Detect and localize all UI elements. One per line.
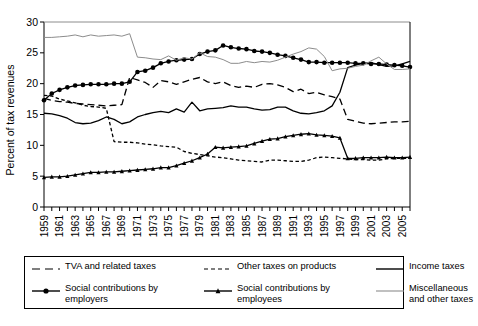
axis-frame (44, 22, 410, 207)
y-tick-label: 25 (26, 46, 38, 58)
x-tick-label: 1991 (288, 215, 299, 238)
x-tick-label: 2005 (397, 215, 408, 238)
y-axis-label-text: Percent of tax revenues (4, 65, 16, 176)
x-tick-label: 1971 (132, 215, 143, 238)
x-tick-group: 1959196119631965196719691971197319751977… (39, 207, 410, 237)
y-tick-label: 5 (32, 170, 38, 182)
y-tick-label: 30 (26, 16, 38, 28)
plot-area: Percent of tax revenues 051015202530 195… (0, 0, 427, 250)
series-line-4 (42, 131, 412, 179)
y-tick-label: 10 (26, 139, 38, 151)
legend-label-employers: Social contributions by employers (65, 283, 158, 304)
legend-entry-other-taxes: Other taxes on products (203, 261, 371, 276)
circle-marker-swatch-icon (31, 284, 61, 298)
x-tick-label: 1975 (163, 215, 174, 238)
solid-line-swatch-icon (375, 262, 405, 276)
x-tick-label: 1979 (194, 215, 205, 238)
x-tick-label: 1985 (241, 215, 252, 238)
x-tick-label: 2003 (381, 215, 392, 238)
legend-entry-miscellaneous: Miscellaneous and other taxes (375, 283, 478, 304)
x-tick-label: 1965 (85, 215, 96, 238)
legend-row-2: Social contributions by employers Social… (25, 283, 403, 307)
x-tick-label: 1981 (210, 215, 221, 238)
x-tick-label: 1967 (101, 215, 112, 238)
legend-entry-employees: Social contributions by employees (203, 283, 371, 304)
x-tick-label: 1973 (148, 215, 159, 238)
legend-row-1: TVA and related taxes Other taxes on pro… (25, 261, 403, 285)
x-tick-label: 1969 (116, 215, 127, 238)
y-tick-label: 20 (26, 77, 38, 89)
line-chart: Percent of tax revenues 051015202530 195… (0, 0, 427, 250)
legend-label-income-taxes: Income taxes (409, 261, 464, 272)
y-tick-label: 15 (26, 108, 38, 120)
x-tick-label: 1995 (319, 215, 330, 238)
gray-line-swatch-icon (375, 284, 405, 298)
x-tick-label: 1961 (54, 215, 65, 238)
x-tick-label: 1977 (179, 215, 190, 238)
x-tick-label: 1997 (335, 215, 346, 238)
x-tick-label: 2001 (366, 215, 377, 238)
x-tick-label: 1983 (225, 215, 236, 238)
x-tick-label: 1989 (272, 215, 283, 238)
x-tick-label: 1987 (257, 215, 268, 238)
legend-entry-employers: Social contributions by employers (31, 283, 199, 304)
y-tick-label: 0 (32, 201, 38, 213)
long-dash-swatch-icon (31, 262, 61, 276)
legend-label-other-taxes: Other taxes on products (237, 261, 336, 272)
x-tick-label: 1959 (39, 215, 50, 238)
legend-label-employees: Social contributions by employees (237, 283, 330, 304)
series-group (42, 34, 413, 180)
chart-legend: TVA and related taxes Other taxes on pro… (24, 256, 404, 309)
cross-marker-swatch-icon (203, 284, 233, 298)
legend-entry-tva: TVA and related taxes (31, 261, 199, 276)
x-tick-label: 1993 (303, 215, 314, 238)
series-line-2 (44, 61, 410, 123)
y-tick-group: 051015202530 (26, 16, 44, 213)
legend-entry-income-taxes: Income taxes (375, 261, 478, 276)
series-line-3 (42, 43, 413, 102)
x-tick-label: 1999 (350, 215, 361, 238)
short-dash-swatch-icon (203, 262, 233, 276)
x-tick-label: 1963 (70, 215, 81, 238)
legend-label-tva: TVA and related taxes (65, 261, 156, 272)
y-axis-label: Percent of tax revenues (4, 65, 16, 176)
legend-label-miscellaneous: Miscellaneous and other taxes (409, 283, 473, 304)
